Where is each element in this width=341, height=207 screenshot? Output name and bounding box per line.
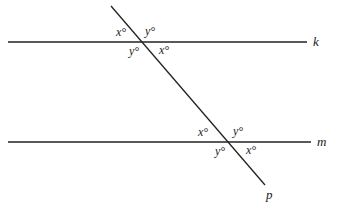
angle-label: x° (245, 143, 256, 157)
angle-label: y° (128, 44, 139, 58)
transversal-p (111, 6, 265, 185)
line-k-label: k (313, 34, 319, 49)
angle-label: y° (232, 124, 243, 138)
angle-label: x° (158, 43, 169, 57)
line-m-label: m (317, 134, 326, 149)
angle-label: x° (197, 125, 208, 139)
parallel-lines-diagram: k m p x° y° y° x° x° y° y° x° (0, 0, 341, 207)
angle-label: y° (144, 24, 155, 38)
angle-label: y° (214, 144, 225, 158)
line-p-label: p (265, 187, 273, 202)
angle-label: x° (115, 25, 126, 39)
